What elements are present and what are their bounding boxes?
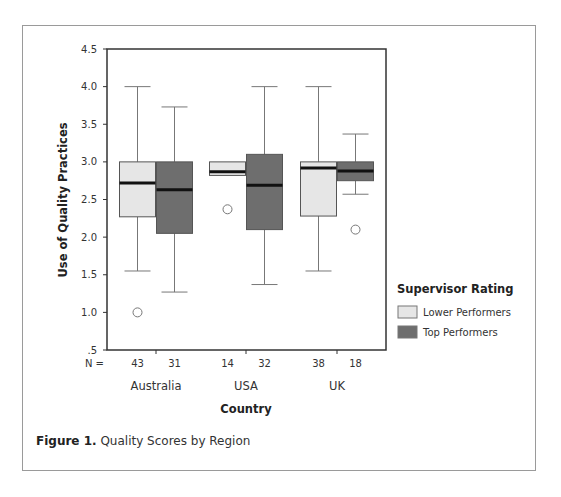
box-lower-performers [210, 162, 246, 176]
n-count-label: 43 [131, 358, 144, 369]
outlier-marker [351, 225, 360, 234]
boxplot-chart: .51.01.52.02.53.03.54.04.5Use of Quality… [0, 0, 561, 497]
box-top-performers [157, 162, 193, 233]
caption-label: Figure 1. [36, 434, 97, 448]
y-tick-label: 3.5 [81, 119, 97, 130]
y-tick-label: 4.5 [81, 44, 97, 55]
x-category-label: Australia [131, 379, 182, 393]
n-count-label: 14 [221, 358, 234, 369]
x-category-label: USA [234, 379, 258, 393]
outlier-marker [223, 205, 232, 214]
legend-swatch [398, 326, 417, 338]
y-axis-title: Use of Quality Practices [56, 122, 70, 277]
n-prefix-label: N = [85, 358, 104, 369]
box-top-performers [247, 154, 283, 229]
n-count-label: 18 [349, 358, 362, 369]
n-count-label: 31 [168, 358, 181, 369]
legend-label: Lower Performers [423, 307, 511, 318]
caption-text: Quality Scores by Region [100, 434, 250, 448]
x-category-label: UK [329, 379, 345, 393]
legend-swatch [398, 306, 417, 318]
n-count-label: 32 [258, 358, 271, 369]
y-tick-label: 3.0 [81, 156, 97, 167]
y-tick-label: 1.0 [81, 307, 97, 318]
y-tick-label: 4.0 [81, 81, 97, 92]
y-tick-label: 2.0 [81, 232, 97, 243]
box-lower-performers [120, 162, 156, 217]
figure-caption: Figure 1. Quality Scores by Region [36, 434, 250, 448]
y-tick-label: 2.5 [81, 194, 97, 205]
legend-title: Supervisor Rating [397, 282, 514, 296]
y-tick-label: .5 [87, 345, 97, 356]
y-tick-label: 1.5 [81, 269, 97, 280]
legend-label: Top Performers [422, 327, 498, 338]
box-lower-performers [301, 162, 337, 216]
outlier-marker [133, 308, 142, 317]
n-count-label: 38 [312, 358, 325, 369]
x-axis-title: Country [220, 402, 272, 416]
